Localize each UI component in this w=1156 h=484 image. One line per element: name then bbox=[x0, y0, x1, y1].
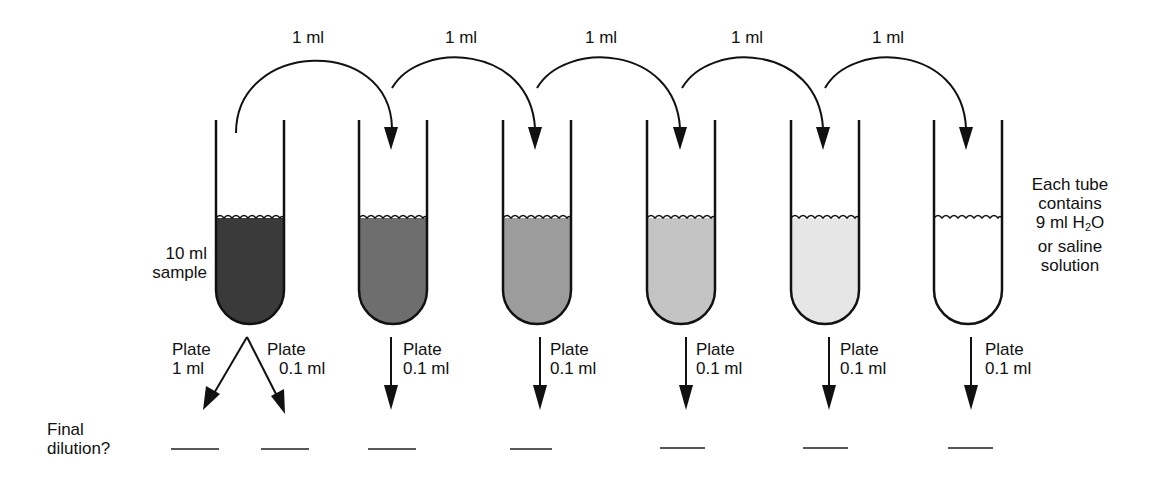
answer-blanks bbox=[171, 448, 993, 449]
note-line-2: contains bbox=[1015, 194, 1125, 213]
arrowhead-icon bbox=[673, 127, 687, 150]
tube-3 bbox=[503, 120, 571, 324]
tube-2 bbox=[359, 120, 427, 324]
tube-6 bbox=[934, 120, 1002, 324]
plate-label-4: Plate0.1 ml bbox=[550, 340, 596, 378]
transfer-label-1: 1 ml bbox=[292, 28, 324, 47]
transfer-arrow-5 bbox=[825, 57, 966, 128]
transfer-arrow-2 bbox=[392, 57, 535, 128]
final-dilution-label: Final dilution? bbox=[47, 420, 110, 458]
transfer-arrows bbox=[236, 57, 966, 133]
plate-label-6: Plate0.1 ml bbox=[840, 340, 886, 378]
transfer-arrow-3 bbox=[537, 57, 680, 128]
tube-5 bbox=[791, 120, 859, 324]
note-line-1: Each tube bbox=[1015, 175, 1125, 194]
transfer-label-5: 1 ml bbox=[872, 28, 904, 47]
note-line-4: or saline bbox=[1015, 237, 1125, 256]
tube-1 bbox=[216, 120, 284, 324]
tube-contents-note: Each tube contains 9 ml H2O or saline so… bbox=[1015, 175, 1125, 275]
transfer-label-3: 1 ml bbox=[585, 28, 617, 47]
tube-4 bbox=[647, 120, 715, 324]
transfer-arrowheads bbox=[384, 127, 973, 150]
plate-label-5: Plate0.1 ml bbox=[696, 340, 742, 378]
arrowhead-icon bbox=[528, 127, 542, 150]
note-line-3: 9 ml H2O bbox=[1015, 213, 1125, 237]
arrowhead-icon bbox=[384, 127, 398, 150]
serial-dilution-diagram bbox=[0, 0, 1156, 484]
transfer-label-4: 1 ml bbox=[731, 28, 763, 47]
transfer-arrow-4 bbox=[682, 57, 823, 128]
plate-label-7: Plate0.1 ml bbox=[985, 340, 1031, 378]
arrowhead-icon bbox=[959, 127, 973, 150]
sample-volume: 10 ml bbox=[137, 244, 207, 263]
plate-label-1: Plate1 ml bbox=[172, 340, 211, 378]
sample-word: sample bbox=[137, 263, 207, 282]
transfer-label-2: 1 ml bbox=[445, 28, 477, 47]
arrowhead-icon bbox=[816, 127, 830, 150]
transfer-arrow-1 bbox=[236, 61, 392, 133]
test-tubes bbox=[216, 120, 1002, 324]
note-line-5: solution bbox=[1015, 256, 1125, 275]
plate-label-3: Plate0.1 ml bbox=[403, 340, 449, 378]
plate-label-2: Plate0.1 ml bbox=[267, 340, 325, 378]
sample-label: 10 ml sample bbox=[137, 244, 207, 282]
